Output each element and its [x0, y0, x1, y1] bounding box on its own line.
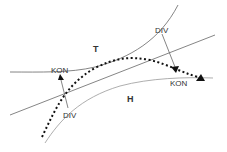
kon-left-label: KON [51, 66, 69, 75]
div-right-label: DIV [155, 26, 169, 35]
axis-line [10, 35, 215, 115]
diagram-canvas: KON DIV DIV KON T H [0, 0, 227, 152]
right-arrowhead-icon [171, 66, 179, 73]
right-divergence-arrow [162, 34, 175, 67]
div-left-label: DIV [63, 111, 77, 120]
left-convergence-arrow [61, 80, 68, 108]
kon-right-label: KON [170, 79, 188, 88]
region-h-label: H [127, 94, 134, 104]
upper-contour-line [10, 5, 178, 72]
region-t-label: T [93, 44, 99, 54]
